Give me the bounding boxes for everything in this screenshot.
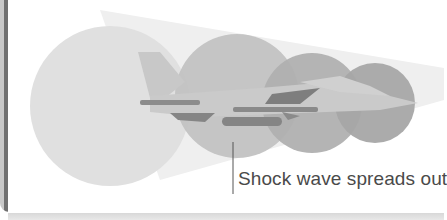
- caption-label: Shock wave spreads out: [238, 168, 447, 190]
